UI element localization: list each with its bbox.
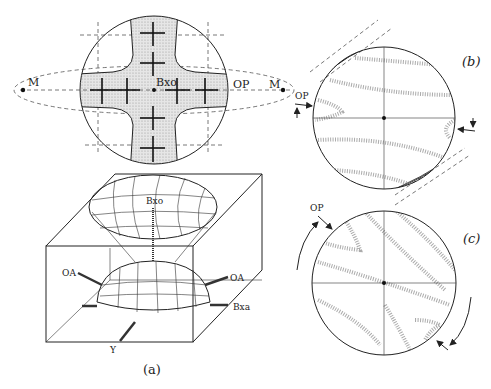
y-axis xyxy=(120,322,135,341)
label-op-b: OP xyxy=(295,91,308,101)
label-op-top: OP xyxy=(233,78,250,91)
optic-axis-left xyxy=(78,273,102,285)
panel-a-interference-figure: M Bxo OP M xyxy=(14,10,294,175)
label-op-c: OP xyxy=(310,203,323,213)
label-bxo-top: Bxo xyxy=(156,76,177,89)
label-bxo-indicatrix: Bxo xyxy=(146,196,163,206)
label-m-right: M xyxy=(269,78,280,91)
wave-surface xyxy=(89,175,217,239)
optic-axis-right xyxy=(205,277,228,285)
panel-a-indicatrix-block: Bxo OA OA Bxa Y (a) xyxy=(46,174,262,377)
label-oa-right: OA xyxy=(230,273,244,283)
panel-b-flash-figure: OP (b) xyxy=(295,20,480,205)
melatope-right xyxy=(281,88,285,92)
optics-figure: M Bxo OP M Bxo xyxy=(0,0,491,389)
panel-c-flash-figure: OP (c) xyxy=(297,203,480,355)
label-y: Y xyxy=(109,345,117,355)
melatope-left xyxy=(21,88,25,92)
label-oa-left: OA xyxy=(62,268,76,278)
label-bxa: Bxa xyxy=(233,302,251,312)
caption-b: (b) xyxy=(462,54,480,69)
caption-a: (a) xyxy=(143,362,161,377)
label-m-left: M xyxy=(28,76,39,89)
caption-c: (c) xyxy=(463,231,480,246)
